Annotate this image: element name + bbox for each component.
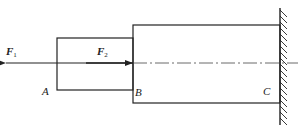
segment-bc: [133, 25, 280, 103]
point-a-label: A: [41, 85, 49, 97]
fixed-wall-support: [280, 8, 287, 125]
force-f2-label: F2: [96, 45, 108, 59]
force-f1-label: F1: [5, 45, 17, 59]
segment-ab: [57, 38, 133, 90]
point-b-label: B: [135, 86, 142, 98]
stepped-bar-diagram: F1 F2 A B C: [0, 0, 304, 130]
point-c-label: C: [263, 85, 271, 97]
